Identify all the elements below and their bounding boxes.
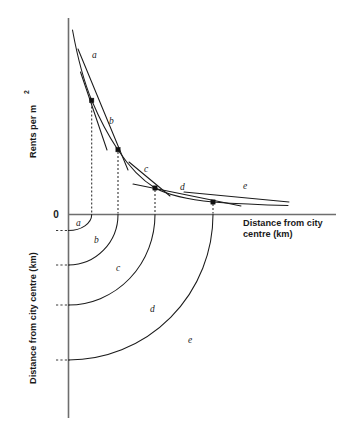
- arc-label-c: c: [116, 263, 121, 273]
- x-axis-label-line2: centre (km): [243, 229, 293, 239]
- bottom-panel: a b c d e Distance from city centre (km): [28, 215, 213, 385]
- arc-label-e: e: [188, 335, 192, 345]
- rent-gradient-figure: a b c d e 0 Rents per m 2 Distance from …: [0, 0, 350, 438]
- arc-label-b: b: [94, 235, 99, 245]
- y-axis-label-text: Rents per m: [28, 105, 38, 158]
- curve-label-a: a: [92, 50, 97, 60]
- tangent-line-a: [81, 72, 108, 150]
- tangent-line-c: [129, 162, 170, 196]
- figure-canvas: a b c d e 0 Rents per m 2 Distance from …: [0, 0, 350, 438]
- arc-label-d: d: [150, 304, 155, 314]
- curve-label-e: e: [243, 181, 247, 191]
- tangency-point-d: [211, 200, 215, 204]
- curve-label-d: d: [180, 182, 185, 192]
- origin-label: 0: [53, 209, 59, 220]
- tangency-point-b: [116, 148, 120, 152]
- curve-label-b: b: [109, 116, 114, 126]
- tangent-line-d: [133, 184, 241, 206]
- arc-label-a: a: [76, 218, 81, 228]
- y-axis-label-superscript: 2: [23, 90, 30, 94]
- tangency-point-a: [90, 98, 94, 102]
- curve-label-c: c: [144, 164, 149, 174]
- y-axis-label-bottom-panel: Distance from city centre (km): [28, 252, 38, 384]
- y-axis-label-top-panel: Rents per m: [28, 105, 38, 158]
- tangent-line-b: [78, 49, 128, 170]
- x-axis-label-line1: Distance from city: [243, 218, 324, 228]
- rent-gradient-curve: [73, 30, 289, 206]
- tangency-point-c: [153, 186, 157, 190]
